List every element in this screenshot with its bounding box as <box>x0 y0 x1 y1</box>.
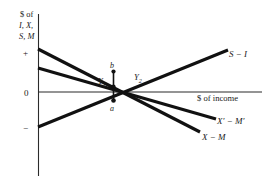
y-axis-label-line2: I, X, <box>18 21 33 30</box>
point-label-b: b <box>110 61 114 70</box>
y-axis-label-line3: S, M <box>19 32 35 41</box>
point-a-dot <box>111 98 116 103</box>
equilibrium-label-y2: Y2 <box>134 72 142 84</box>
curve-x-minus-m <box>38 49 200 132</box>
y2-subscript: 2 <box>139 78 142 84</box>
point-label-a: a <box>110 104 114 113</box>
curve-label-x-minus-m: X − M <box>201 132 226 142</box>
y1-subscript: 1 <box>103 82 106 88</box>
equilibrium-label-y1: Y1 <box>98 76 106 88</box>
point-y1-dot <box>111 84 115 88</box>
economics-figure: $ of I, X, S, M + 0 − $ of income S − I … <box>0 0 270 185</box>
y-axis-label-line1: $ of <box>20 10 33 19</box>
point-b-dot <box>111 69 115 73</box>
figure-canvas: $ of I, X, S, M + 0 − $ of income S − I … <box>0 0 270 185</box>
curve-label-x-prime-minus-m-prime: X′ − M′ <box>216 116 246 126</box>
y-tick-zero: 0 <box>24 88 29 98</box>
y-tick-negative: − <box>23 123 28 133</box>
curve-label-s-minus-i: S − I <box>229 49 248 59</box>
y-tick-positive: + <box>23 48 28 58</box>
x-axis-label: $ of income <box>197 93 238 103</box>
